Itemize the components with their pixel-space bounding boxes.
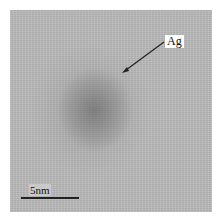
scale-bar-label: 5nm bbox=[29, 184, 51, 196]
cropped-caption bbox=[0, 216, 223, 223]
scale-bar bbox=[21, 197, 79, 199]
ag-label: Ag bbox=[165, 35, 184, 48]
